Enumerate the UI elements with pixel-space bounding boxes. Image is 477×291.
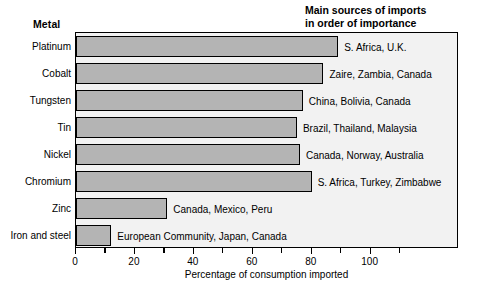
bar-row: Zaire, Zambia, Canada (76, 63, 457, 84)
x-tick (311, 248, 312, 254)
category-label-zinc: Zinc (0, 202, 71, 213)
sources-header-line-1: Main sources of imports (305, 4, 465, 17)
category-label-tin: Tin (0, 121, 71, 132)
x-tick (104, 248, 105, 253)
bar-iron-and-steel[interactable] (76, 225, 111, 246)
bar-tin[interactable] (76, 117, 297, 138)
category-label-platinum: Platinum (0, 40, 71, 51)
x-tick (193, 248, 194, 254)
source-label: S. Africa, Turkey, Zimbabwe (312, 176, 442, 187)
x-tick-label: 60 (246, 256, 257, 267)
bar-platinum[interactable] (76, 36, 338, 57)
category-label-nickel: Nickel (0, 148, 71, 159)
x-tick (163, 248, 164, 253)
bar-row: S. Africa, Turkey, Zimbabwe (76, 171, 457, 192)
source-label: S. Africa, U.K. (338, 41, 406, 52)
x-tick (370, 248, 371, 254)
category-label-iron-and-steel: Iron and steel (0, 229, 71, 240)
x-tick-label: 100 (361, 256, 378, 267)
x-tick (340, 248, 341, 253)
category-label-tungsten: Tungsten (0, 94, 71, 105)
chart-figure: Metal Main sources of imports in order o… (0, 0, 477, 291)
x-tick-label: 80 (305, 256, 316, 267)
bar-zinc[interactable] (76, 198, 167, 219)
source-label: Canada, Mexico, Peru (167, 203, 272, 214)
x-axis-label: Percentage of consumption imported (75, 269, 458, 280)
bar-row: Brazil, Thailand, Malaysia (76, 117, 457, 138)
x-tick-label: 20 (128, 256, 139, 267)
x-tick (399, 248, 400, 253)
bar-row: Canada, Mexico, Peru (76, 198, 457, 219)
source-label: Brazil, Thailand, Malaysia (297, 122, 417, 133)
x-tick (252, 248, 253, 254)
x-tick-label: 0 (72, 256, 78, 267)
bar-chromium[interactable] (76, 171, 312, 192)
bar-row: S. Africa, U.K. (76, 36, 457, 57)
bar-row: European Community, Japan, Canada (76, 225, 457, 246)
x-tick-label: 40 (187, 256, 198, 267)
category-label-cobalt: Cobalt (0, 67, 71, 78)
x-tick (134, 248, 135, 254)
x-tick (281, 248, 282, 253)
source-label: China, Bolivia, Canada (303, 95, 411, 106)
bar-tungsten[interactable] (76, 90, 303, 111)
source-label: Zaire, Zambia, Canada (323, 68, 431, 79)
source-label: Canada, Norway, Australia (300, 149, 424, 160)
plot-area: S. Africa, U.K.Zaire, Zambia, CanadaChin… (75, 32, 458, 248)
x-tick (75, 248, 76, 254)
sources-header-line-2: in order of importance (305, 17, 465, 30)
bar-nickel[interactable] (76, 144, 300, 165)
bar-row: Canada, Norway, Australia (76, 144, 457, 165)
bar-cobalt[interactable] (76, 63, 323, 84)
bar-row: China, Bolivia, Canada (76, 90, 457, 111)
x-tick (222, 248, 223, 253)
x-axis: 020406080100 (75, 248, 458, 249)
source-label: European Community, Japan, Canada (111, 230, 286, 241)
category-label-chromium: Chromium (0, 175, 71, 186)
sources-column-header: Main sources of imports in order of impo… (305, 4, 465, 29)
metal-column-header: Metal (33, 18, 60, 30)
